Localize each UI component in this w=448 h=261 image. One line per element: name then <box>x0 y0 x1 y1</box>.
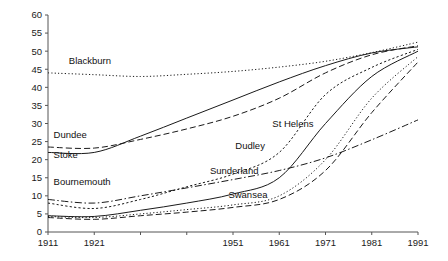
y-tick-label: 55 <box>31 27 42 38</box>
x-tick-label: 1961 <box>269 237 290 248</box>
y-axis: 051015202530354045505560 <box>31 9 48 237</box>
y-tick-label: 25 <box>31 136 42 147</box>
series-label-st-helens: St Helens <box>272 118 313 129</box>
y-tick-label: 20 <box>31 154 42 165</box>
x-tick-label: 1971 <box>315 237 336 248</box>
x-tick-label: 1951 <box>222 237 243 248</box>
series-label-swansea: Swansea <box>228 189 268 200</box>
x-tick-label: 1921 <box>84 237 105 248</box>
y-tick-label: 15 <box>31 172 42 183</box>
y-tick-label: 30 <box>31 118 42 129</box>
y-tick-label: 45 <box>31 64 42 75</box>
series-label-stoke: Stoke <box>54 149 78 160</box>
series-label-dundee: Dundee <box>54 129 87 140</box>
series-label-blackburn: Blackburn <box>69 55 111 66</box>
series-labels: BlackburnDundeeStokeBournemouthDudleySt … <box>54 55 314 200</box>
y-tick-label: 5 <box>37 208 42 219</box>
series-label-dudley: Dudley <box>235 140 265 151</box>
y-tick-label: 50 <box>31 46 42 57</box>
line-chart: 051015202530354045505560 191119211951196… <box>0 0 448 261</box>
y-tick-label: 0 <box>37 226 42 237</box>
series-label-sunderland: Sunderland <box>210 165 259 176</box>
y-tick-label: 40 <box>31 82 42 93</box>
y-tick-label: 10 <box>31 190 42 201</box>
x-tick-label: 1991 <box>407 237 428 248</box>
series-label-bournemouth: Bournemouth <box>54 176 111 187</box>
x-axis: 1911192119511961197119811991 <box>38 232 429 248</box>
x-tick-label: 1911 <box>38 237 58 248</box>
chart-canvas: 051015202530354045505560 191119211951196… <box>0 0 448 261</box>
x-tick-label: 1981 <box>361 237 382 248</box>
y-tick-label: 35 <box>31 100 42 111</box>
y-tick-label: 60 <box>31 9 42 20</box>
